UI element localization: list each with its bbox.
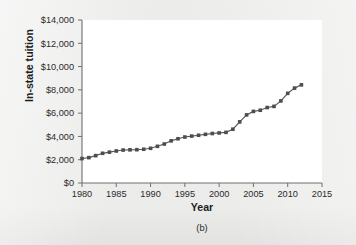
y-axis-title: In-state tuition	[23, 29, 35, 102]
figure-panel-b: $0$2,000$4,000$6,000$8,000$10,000$12,000…	[0, 0, 356, 245]
x-tick-label: 1995	[175, 189, 195, 199]
y-tick-label: $10,000	[41, 62, 74, 72]
y-tick-label: $2,000	[46, 155, 74, 165]
x-tick-label: 2010	[277, 189, 297, 199]
y-tick-label: $0	[64, 178, 74, 188]
data-point-marker: 1998: $4,180	[204, 133, 208, 137]
data-point-marker: 1999: $4,250	[210, 132, 214, 136]
y-tick-label: $12,000	[41, 39, 74, 49]
data-point-marker: 1997: $4,100	[197, 133, 201, 137]
x-tick-label: 1980	[72, 189, 92, 199]
data-point-marker: 2012: $8,430	[300, 83, 304, 87]
data-point-marker: 1982: $2,350	[94, 154, 98, 158]
data-point-marker: 1983: $2,550	[101, 152, 105, 156]
data-point-marker: 2006: $6,250	[258, 108, 262, 112]
x-tick-label: 2005	[243, 189, 263, 199]
data-point-marker: 2007: $6,480	[265, 106, 269, 110]
x-tick-label: 1990	[140, 189, 160, 199]
data-point-marker: 1980: $2,100	[80, 157, 84, 161]
data-point-marker: 1996: $4,030	[190, 134, 194, 138]
x-tick-label: 2015	[312, 189, 332, 199]
data-point-marker: 1988: $2,860	[135, 148, 139, 152]
y-tick-label: $6,000	[46, 108, 74, 118]
data-point-marker: 2011: $8,150	[293, 86, 297, 90]
data-point-marker: 1994: $3,800	[176, 137, 180, 141]
data-point-marker: 2009: $7,050	[279, 99, 283, 103]
data-point-marker: 2005: $6,150	[252, 110, 256, 114]
data-point-marker: 1993: $3,620	[169, 139, 173, 143]
x-axis-tick-marks	[82, 183, 322, 187]
data-point-marker: 1986: $2,830	[121, 148, 125, 152]
data-point-marker: 1989: $2,900	[142, 147, 146, 151]
data-point-marker: 2000: $4,300	[217, 131, 221, 135]
data-point-marker: 1995: $3,950	[183, 135, 187, 139]
data-point-marker: 1992: $3,350	[162, 142, 166, 146]
data-point-marker: 2010: $7,700	[286, 92, 290, 96]
data-point-marker: 1987: $2,850	[128, 148, 132, 152]
data-point-marker: 2008: $6,580	[272, 105, 276, 109]
panel-caption: (b)	[196, 222, 207, 233]
tuition-line-chart: $0$2,000$4,000$6,000$8,000$10,000$12,000…	[0, 0, 356, 245]
data-point-marker: 2003: $5,250	[238, 120, 242, 124]
x-tick-label: 2000	[209, 189, 229, 199]
x-axis-tick-labels: 19801985199019952000200520102015	[72, 189, 332, 199]
data-point-marker: 2001: $4,350	[224, 131, 228, 135]
data-point-marker: 2002: $4,620	[231, 127, 235, 131]
data-point-marker: 1990: $2,980	[149, 147, 153, 151]
data-point-marker: 2004: $5,850	[245, 113, 249, 117]
data-point-marker: 1984: $2,650	[108, 150, 112, 154]
y-tick-label: $8,000	[46, 85, 74, 95]
data-point-marker: 1985: $2,750	[114, 149, 118, 153]
x-tick-label: 1985	[106, 189, 126, 199]
y-tick-label: $4,000	[46, 132, 74, 142]
data-point-marker: 1981: $2,180	[87, 156, 91, 160]
x-axis-title: Year	[191, 201, 213, 213]
data-point-marker: 1991: $3,150	[156, 145, 160, 149]
plot-area-background	[82, 20, 322, 183]
y-tick-label: $14,000	[41, 15, 74, 25]
y-axis-tick-labels: $0$2,000$4,000$6,000$8,000$10,000$12,000…	[41, 15, 74, 188]
